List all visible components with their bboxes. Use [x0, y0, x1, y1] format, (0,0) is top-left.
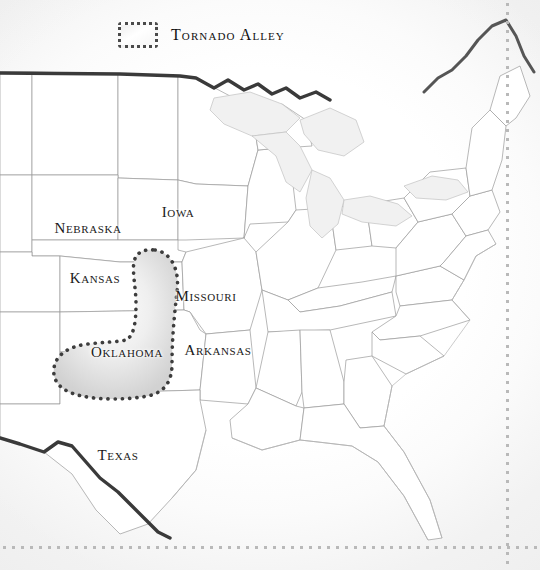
state-label-oklahoma: Oklahoma	[91, 344, 163, 361]
decorative-dotted-rule-vertical	[506, 0, 509, 570]
state-label-texas: Texas	[98, 447, 139, 464]
tornado-alley-swatch-icon	[118, 22, 158, 48]
map-page: Nebraska Iowa Kansas Missouri Oklahoma A…	[0, 0, 540, 570]
state-label-arkansas: Arkansas	[185, 342, 252, 359]
legend-label: Tornado Alley	[171, 26, 285, 44]
state-label-iowa: Iowa	[162, 204, 194, 221]
state-label-nebraska: Nebraska	[55, 220, 122, 237]
legend: Tornado Alley	[118, 22, 285, 48]
state-label-missouri: Missouri	[176, 288, 237, 305]
state-label-kansas: Kansas	[70, 270, 121, 287]
decorative-dotted-rule-horizontal	[0, 546, 540, 549]
